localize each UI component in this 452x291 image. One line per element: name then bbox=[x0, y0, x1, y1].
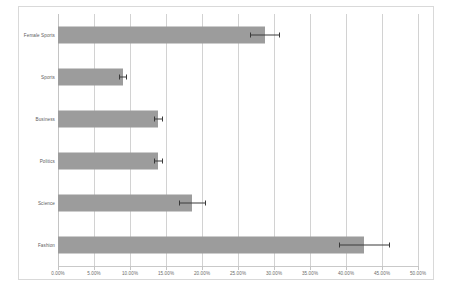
gridline bbox=[58, 14, 59, 266]
error-bar-line bbox=[119, 77, 126, 78]
gridline bbox=[202, 14, 203, 266]
error-bar-cap bbox=[154, 117, 155, 122]
x-tick-label: 0.00% bbox=[51, 271, 65, 276]
category-label: Science bbox=[38, 201, 55, 206]
bar bbox=[58, 237, 364, 254]
tick-mark bbox=[382, 266, 383, 270]
tick-mark bbox=[274, 266, 275, 270]
tick-mark bbox=[202, 266, 203, 270]
x-tick-label: 45.00% bbox=[374, 271, 390, 276]
bar bbox=[58, 27, 265, 44]
error-bar-cap bbox=[119, 75, 120, 80]
x-tick-label: 35.00% bbox=[302, 271, 318, 276]
category-label: Politics bbox=[40, 159, 55, 164]
category-label: Business bbox=[36, 117, 55, 122]
category-label: Fashion bbox=[38, 243, 55, 248]
error-bar-cap bbox=[162, 117, 163, 122]
gridline bbox=[382, 14, 383, 266]
gridline bbox=[238, 14, 239, 266]
category-label: Sports bbox=[41, 75, 55, 80]
tick-mark bbox=[130, 266, 131, 270]
tick-mark bbox=[94, 266, 95, 270]
category-label: Female Sports bbox=[24, 33, 55, 38]
tick-mark bbox=[346, 266, 347, 270]
error-bar-cap bbox=[126, 75, 127, 80]
bar bbox=[58, 111, 158, 128]
gridline bbox=[274, 14, 275, 266]
bar bbox=[58, 153, 158, 170]
gridline bbox=[310, 14, 311, 266]
x-tick-label: 15.00% bbox=[158, 271, 174, 276]
error-bar-cap bbox=[179, 201, 180, 206]
gridline bbox=[346, 14, 347, 266]
chart-container: 0.00%5.00%10.00%15.00%20.00%25.00%30.00%… bbox=[0, 0, 452, 291]
gridline bbox=[166, 14, 167, 266]
gridline bbox=[418, 14, 419, 266]
error-bar-cap bbox=[389, 243, 390, 248]
error-bar-line bbox=[154, 119, 163, 120]
error-bar-line bbox=[154, 161, 161, 162]
x-tick-label: 5.00% bbox=[87, 271, 101, 276]
x-tick-label: 50.00% bbox=[410, 271, 426, 276]
x-tick-label: 40.00% bbox=[338, 271, 354, 276]
tick-mark bbox=[310, 266, 311, 270]
x-tick-label: 25.00% bbox=[230, 271, 246, 276]
tick-mark bbox=[238, 266, 239, 270]
error-bar-cap bbox=[154, 159, 155, 164]
x-tick-label: 10.00% bbox=[122, 271, 138, 276]
error-bar-cap bbox=[205, 201, 206, 206]
gridline bbox=[130, 14, 131, 266]
tick-mark bbox=[418, 266, 419, 270]
error-bar-line bbox=[250, 35, 279, 36]
bar bbox=[58, 195, 192, 212]
bar bbox=[58, 69, 123, 86]
error-bar-line bbox=[179, 203, 205, 204]
tick-mark bbox=[58, 266, 59, 270]
error-bar-cap bbox=[279, 33, 280, 38]
error-bar-line bbox=[339, 245, 389, 246]
error-bar-cap bbox=[339, 243, 340, 248]
gridline bbox=[94, 14, 95, 266]
error-bar-cap bbox=[250, 33, 251, 38]
tick-mark bbox=[166, 266, 167, 270]
x-tick-label: 20.00% bbox=[194, 271, 210, 276]
error-bar-cap bbox=[162, 159, 163, 164]
x-tick-label: 30.00% bbox=[266, 271, 282, 276]
